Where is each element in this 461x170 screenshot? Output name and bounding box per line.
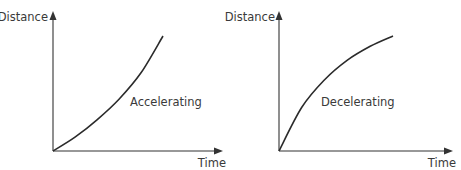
accelerating-graph: Distance Time Accelerating (0, 10, 226, 170)
x-axis-arrow-icon (444, 148, 453, 155)
y-axis-label: Distance (225, 10, 275, 24)
x-axis-arrow-icon (214, 148, 223, 155)
distance-time-diagrams: Distance Time Accelerating Distance Time… (0, 0, 461, 170)
distance-curve (279, 36, 393, 151)
x-axis-label: Time (197, 156, 226, 170)
y-axis-arrow-icon (276, 11, 283, 20)
curve-annotation: Accelerating (130, 95, 202, 109)
y-axis-label: Distance (0, 10, 48, 24)
distance-curve (53, 36, 163, 151)
y-axis-arrow-icon (50, 11, 57, 20)
curve-annotation: Decelerating (321, 95, 395, 109)
x-axis-label: Time (427, 156, 456, 170)
decelerating-graph: Distance Time Decelerating (225, 10, 456, 170)
